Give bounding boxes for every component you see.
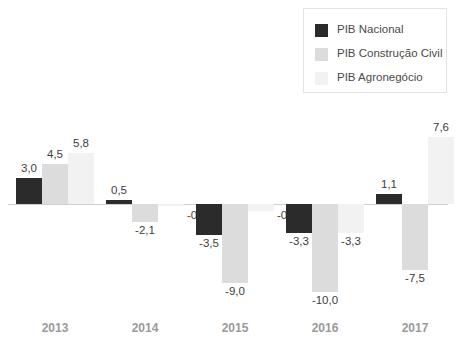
legend: PIB Nacional PIB Construção Civil PIB Ag… [303,8,447,93]
bar-2017-series-2[interactable] [402,204,428,270]
bar-value-label: 5,8 [66,138,96,150]
bar-2014-series-1[interactable] [106,200,132,204]
bar-2013-series-1[interactable] [16,178,42,204]
bar-value-label: -9,0 [216,286,254,298]
x-tick-2016: 2016 [295,322,355,334]
bar-group-2014: 0,5-2,1-0,1 [106,0,184,313]
bar-value-label: 0,5 [104,185,134,197]
bar-value-label: -3,3 [332,236,370,248]
x-tick-2013: 2013 [25,322,85,334]
bar-2016-series-2[interactable] [312,204,338,292]
bar-group-2013: 3,04,55,8 [16,0,94,313]
bar-chart: 3,04,55,80,5-2,1-0,1-3,5-9,0-0,8-3,3-10,… [0,0,456,353]
bar-value-label: -10,0 [306,295,344,307]
bar-value-label: 3,0 [14,163,44,175]
legend-swatch-pib-construcao-civil [315,48,328,61]
x-axis: 20132014201520162017 [0,322,456,342]
legend-label: PIB Construção Civil [337,48,442,60]
x-tick-2014: 2014 [115,322,175,334]
bar-value-label: 7,6 [426,122,456,134]
bar-group-2015: -3,5-9,0-0,8 [196,0,274,313]
bar-2017-series-3[interactable] [428,137,454,204]
legend-item[interactable]: PIB Construção Civil [315,42,446,66]
bar-2013-series-3[interactable] [68,153,94,204]
legend-label: PIB Agronegócio [337,72,423,84]
bar-2015-series-2[interactable] [222,204,248,283]
bar-value-label: 4,5 [40,149,70,161]
bar-2016-series-3[interactable] [338,204,364,233]
bar-2017-series-1[interactable] [376,194,402,204]
legend-label: PIB Nacional [337,24,403,36]
x-tick-2017: 2017 [385,322,445,334]
legend-item[interactable]: PIB Nacional [315,18,446,42]
bar-value-label: -7,5 [396,273,434,285]
bar-2013-series-2[interactable] [42,164,68,204]
bar-2016-series-1[interactable] [286,204,312,233]
bar-value-label: 1,1 [374,179,404,191]
x-tick-2015: 2015 [205,322,265,334]
legend-swatch-pib-nacional [315,24,328,37]
bar-value-label: -2,1 [126,225,164,237]
bar-2015-series-3[interactable] [248,204,274,211]
legend-swatch-pib-agronegocio [315,72,328,85]
bar-2014-series-3[interactable] [158,204,184,206]
bar-2015-series-1[interactable] [196,204,222,235]
bar-2014-series-2[interactable] [132,204,158,222]
legend-item[interactable]: PIB Agronegócio [315,66,446,90]
